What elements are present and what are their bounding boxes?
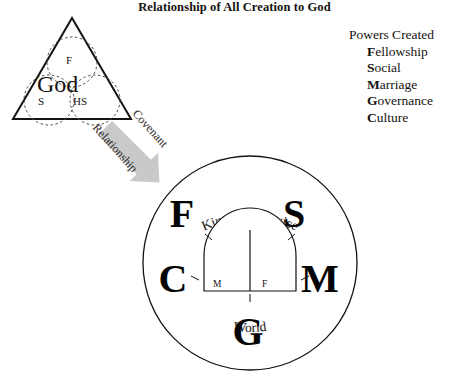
trinity-triangle <box>13 18 131 119</box>
creation-letter-governance: G <box>232 309 263 354</box>
trinity-label-god: God <box>37 71 78 97</box>
arch-label-female: F <box>262 279 267 289</box>
creation-letter-marriage: M <box>301 256 339 301</box>
arrow-label-covenant: Covenant <box>130 107 172 151</box>
trinity-triangle-group: F S HS God <box>13 18 131 125</box>
creation-letter-social: S <box>283 191 305 236</box>
diagram-page: Relationship of All Creation to God Powe… <box>0 0 469 386</box>
creation-circle-group: Kingdom Service World M F F S C M G <box>143 156 357 370</box>
arch-label-male: M <box>213 279 222 289</box>
creation-letter-fellowship: F <box>170 191 194 236</box>
trinity-label-father: F <box>66 54 72 66</box>
diagram-canvas: F S HS God Covenant Relationship Kingdom… <box>0 0 469 386</box>
creation-letter-culture: C <box>159 256 188 301</box>
covenant-arrow-group: Covenant Relationship <box>90 107 174 197</box>
connector-tick-culture <box>191 276 199 280</box>
